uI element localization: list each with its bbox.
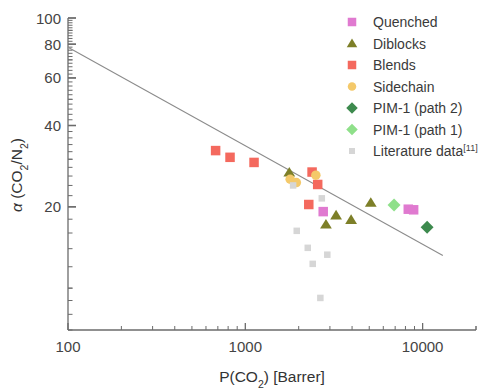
data-point xyxy=(211,146,221,156)
data-point xyxy=(225,153,235,163)
x-tick-label: 100 xyxy=(55,338,80,355)
chart-figure: 20406080100 100100010000 QuenchedDiblock… xyxy=(0,0,496,392)
plot-background xyxy=(0,0,496,392)
data-point xyxy=(304,200,314,210)
data-point xyxy=(324,251,331,258)
y-axis-title-close: ) xyxy=(8,138,25,143)
data-point xyxy=(313,180,323,190)
scatter-plot-canvas: 20406080100 100100010000 QuenchedDiblock… xyxy=(0,0,496,392)
x-tick-label: 1000 xyxy=(229,338,262,355)
data-point xyxy=(293,228,300,235)
x-axis-title-main: P(CO xyxy=(219,368,258,385)
data-point xyxy=(319,195,326,202)
y-axis-title-open: (CO xyxy=(8,170,25,203)
y-tick-label: 60 xyxy=(44,69,61,86)
y-tick-label: 20 xyxy=(44,198,61,215)
data-point xyxy=(311,170,321,180)
data-point xyxy=(318,207,328,217)
legend-label: Diblocks xyxy=(373,36,426,52)
legend-superscript: [11] xyxy=(463,143,477,153)
y-axis-title-slash: /N xyxy=(8,149,25,165)
x-tick-label: 10000 xyxy=(402,338,444,355)
data-point xyxy=(290,182,297,189)
data-point xyxy=(305,245,312,252)
legend-marker-icon xyxy=(348,82,357,91)
x-axis-title-rest: ) [Barrer] xyxy=(264,368,325,385)
data-point xyxy=(249,158,258,168)
data-point xyxy=(317,295,324,302)
data-point xyxy=(409,205,419,215)
data-point xyxy=(309,261,316,268)
y-tick-label: 100 xyxy=(36,10,61,27)
y-tick-label: 40 xyxy=(44,117,61,134)
legend-marker-icon xyxy=(349,148,355,154)
legend-label: Quenched xyxy=(373,14,438,30)
legend-marker-icon xyxy=(348,61,357,70)
legend-label: PIM-1 (path 2) xyxy=(373,100,462,116)
legend-marker-icon xyxy=(348,18,357,27)
legend-label: PIM-1 (path 1) xyxy=(373,122,462,138)
legend-label: Sidechain xyxy=(373,79,435,95)
y-tick-label: 80 xyxy=(44,36,61,53)
legend-label: Blends xyxy=(373,57,416,73)
legend-label: Literature data[11] xyxy=(373,143,478,159)
